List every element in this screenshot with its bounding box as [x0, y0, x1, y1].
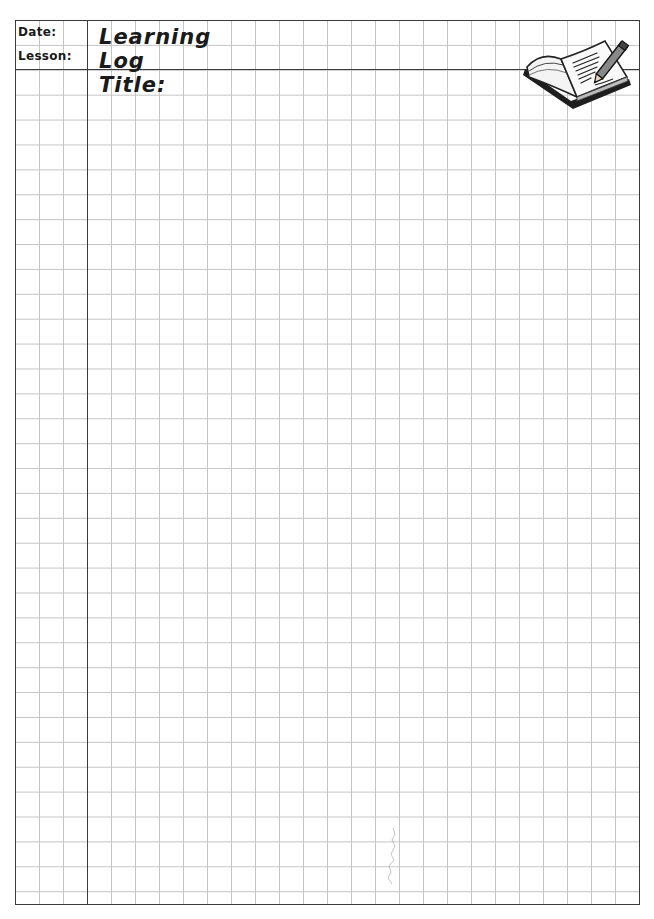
- date-label: Date:: [18, 25, 56, 39]
- open-book-pencil-icon: [521, 29, 636, 111]
- scan-artifact-mark: [383, 826, 403, 886]
- learning-log-title-label: Learning Log Title:: [99, 25, 211, 97]
- grid-worksheet: Date: Lesson: Learning Log Title:: [15, 20, 640, 905]
- lesson-label: Lesson:: [18, 49, 72, 63]
- margin-divider-line: [87, 21, 88, 904]
